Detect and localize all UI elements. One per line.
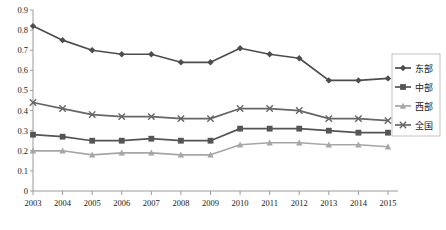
- x-tick-label: 2015: [380, 198, 397, 208]
- y-tick-label: 0.1: [17, 166, 28, 176]
- x-tick-label: 2003: [25, 198, 42, 208]
- data-point-square: [296, 126, 302, 132]
- legend-label: 东部: [415, 63, 433, 74]
- data-point-diamond: [59, 37, 65, 43]
- legend-item-3[interactable]: 全国: [395, 120, 433, 131]
- x-tick-label: 2005: [84, 198, 101, 208]
- data-point-diamond: [385, 75, 391, 81]
- legend-label: 全国: [415, 120, 433, 131]
- x-tick-label: 2010: [232, 198, 249, 208]
- x-tick-label: 2006: [113, 198, 130, 208]
- series-3: [30, 99, 391, 124]
- x-tick-label: 2007: [143, 198, 160, 208]
- legend-label: 西部: [415, 101, 433, 112]
- x-tick-label: 2011: [261, 198, 278, 208]
- data-point-square: [237, 126, 243, 132]
- y-tick-label: 0.9: [17, 5, 28, 15]
- data-point-diamond: [266, 51, 272, 57]
- data-point-square: [326, 128, 332, 134]
- data-point-diamond: [178, 59, 184, 65]
- data-point-square: [356, 130, 362, 136]
- data-point-square: [60, 134, 66, 140]
- data-point-square: [400, 84, 406, 90]
- y-tick-label: 0.2: [17, 146, 28, 156]
- legend-item-2[interactable]: 西部: [395, 101, 433, 112]
- data-point-diamond: [237, 45, 243, 51]
- chart-legend: 东部中部西部全国: [392, 54, 440, 136]
- data-point-square: [119, 138, 125, 144]
- series-0: [30, 23, 391, 84]
- y-tick-label: 0.6: [17, 65, 28, 75]
- data-point-diamond: [119, 51, 125, 57]
- data-point-diamond: [355, 77, 361, 83]
- chart-canvas: 00.10.20.30.40.50.60.70.80.9 20032004200…: [0, 0, 446, 230]
- y-tick-label: 0.3: [17, 126, 28, 136]
- y-tick-label: 0.5: [17, 85, 28, 95]
- data-point-square: [148, 136, 154, 142]
- legend-item-1[interactable]: 中部: [395, 82, 433, 93]
- data-point-square: [178, 138, 184, 144]
- y-tick-label: 0.7: [17, 45, 28, 55]
- y-tick-label: 0.8: [17, 25, 28, 35]
- series-layer: [30, 23, 391, 158]
- x-tick-label: 2014: [350, 198, 368, 208]
- x-tick-label: 2004: [54, 198, 72, 208]
- data-point-diamond: [30, 23, 36, 29]
- x-axis: 2003200420052006200720082009201020112012…: [25, 191, 399, 208]
- data-point-diamond: [89, 47, 95, 53]
- y-tick-label: 0.4: [17, 106, 28, 116]
- data-point-square: [208, 138, 214, 144]
- x-tick-label: 2009: [202, 198, 219, 208]
- line-chart: 00.10.20.30.40.50.60.70.80.9 20032004200…: [0, 0, 446, 230]
- x-tick-label: 2012: [291, 198, 308, 208]
- data-point-square: [30, 132, 36, 138]
- data-point-diamond: [148, 51, 154, 57]
- y-tick-label: 0: [24, 186, 28, 196]
- legend-item-0[interactable]: 东部: [395, 63, 433, 74]
- data-point-diamond: [400, 65, 406, 71]
- x-tick-label: 2008: [172, 198, 189, 208]
- data-point-square: [385, 130, 391, 136]
- data-point-square: [267, 126, 273, 132]
- data-point-diamond: [207, 59, 213, 65]
- legend-label: 中部: [415, 82, 433, 93]
- series-1: [30, 126, 391, 144]
- data-point-square: [89, 138, 95, 144]
- x-tick-label: 2013: [320, 198, 337, 208]
